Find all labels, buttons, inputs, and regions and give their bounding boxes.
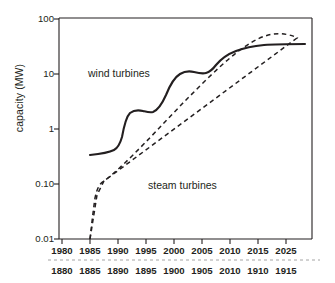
chart-figure: capacity (MW) 100 10 1 0.10 0.01 (0, 0, 335, 283)
wind-turbines-label: wind turbines (88, 67, 150, 79)
x-tick-top-2025: 2025 (269, 245, 303, 256)
series-wind-turbines-line (90, 44, 305, 155)
x-tick-bottom-1915: 1915 (269, 265, 303, 276)
y-tick-marks (54, 19, 59, 239)
plot-canvas (0, 0, 335, 283)
x-tick-marks (62, 239, 286, 244)
steam-turbines-label: steam turbines (148, 179, 217, 191)
